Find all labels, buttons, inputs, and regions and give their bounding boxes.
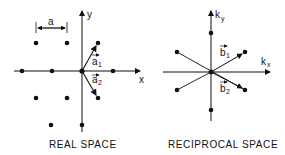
svg-text:2: 2 bbox=[226, 88, 230, 95]
real-space-caption: REAL SPACE bbox=[49, 139, 117, 150]
vector-b2 bbox=[211, 72, 242, 88]
vector-b2-label: b 2 bbox=[220, 82, 230, 95]
y-axis-label: y bbox=[87, 9, 92, 20]
svg-text:y: y bbox=[221, 15, 225, 23]
reciprocal-space-panel: k y k x b 1 b 2 bbox=[163, 9, 278, 150]
lattice-constant-label: a bbox=[48, 16, 54, 27]
vector-a1-label: a 1 bbox=[92, 55, 102, 68]
svg-text:1: 1 bbox=[226, 52, 230, 59]
real-space-panel: y x a a bbox=[14, 9, 144, 150]
lattice-constant-marker: a bbox=[36, 16, 67, 33]
vector-b1-label: b 1 bbox=[220, 46, 230, 59]
diagram-canvas: y x a a bbox=[0, 0, 285, 155]
lattice-diagram: y x a a bbox=[0, 0, 285, 155]
svg-text:2: 2 bbox=[98, 79, 102, 86]
reciprocal-line-diag-2 bbox=[177, 72, 211, 90]
kx-axis-label: k x bbox=[261, 56, 271, 68]
svg-text:1: 1 bbox=[98, 61, 102, 68]
svg-text:x: x bbox=[267, 61, 271, 68]
x-axis-label: x bbox=[139, 74, 144, 85]
vector-a2-label: a 2 bbox=[92, 74, 102, 86]
reciprocal-space-caption: RECIPROCAL SPACE bbox=[168, 139, 278, 150]
ky-axis-label: k y bbox=[215, 9, 225, 23]
